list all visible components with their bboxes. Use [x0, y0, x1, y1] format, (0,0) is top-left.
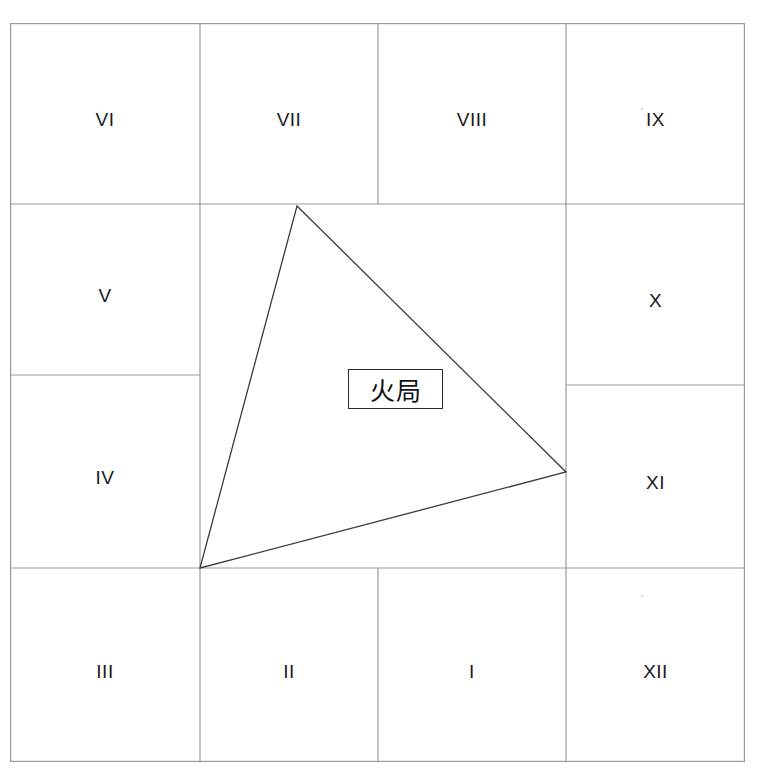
center-formation-text: 火局 [370, 371, 422, 407]
palace-cell-v[interactable]: V [10, 204, 200, 375]
palace-cell-vii[interactable]: VII [200, 23, 378, 204]
palace-label: III [96, 662, 113, 681]
scan-speck [641, 595, 643, 597]
diagram-canvas: VI VII VIII IX V IV X XI III II [0, 0, 760, 772]
palace-cell-vi[interactable]: VI [10, 23, 200, 204]
palace-label: XII [643, 662, 668, 681]
center-formation-label: 火局 [348, 369, 443, 409]
palace-label: X [649, 291, 662, 310]
palace-label: VI [96, 110, 115, 129]
palace-cell-iv[interactable]: IV [10, 375, 200, 568]
palace-label: V [98, 286, 111, 305]
palace-cell-ii[interactable]: II [200, 568, 378, 762]
palace-cell-iii[interactable]: III [10, 568, 200, 762]
palace-cell-ix[interactable]: IX [566, 23, 745, 204]
palace-label: VIII [457, 110, 488, 129]
palace-cell-viii[interactable]: VIII [378, 23, 566, 204]
palace-label: XI [646, 473, 665, 492]
palace-label: II [283, 662, 295, 681]
palace-cell-i[interactable]: I [378, 568, 566, 762]
scan-speck [641, 108, 643, 110]
palace-label: I [469, 662, 475, 681]
palace-cell-x[interactable]: X [566, 204, 745, 385]
palace-cell-xi[interactable]: XI [566, 385, 745, 568]
palace-label: IV [96, 468, 115, 487]
palace-label: VII [277, 110, 302, 129]
palace-label: IX [646, 110, 665, 129]
palace-cell-xii[interactable]: XII [566, 568, 745, 762]
